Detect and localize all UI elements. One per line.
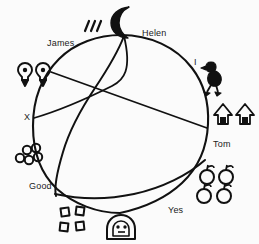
label-good: Good: [29, 181, 52, 191]
outer-circle: [33, 35, 208, 213]
label-i: I: [194, 57, 197, 67]
chord-upperleft-to-tom: [51, 72, 207, 128]
label-james: James: [47, 38, 75, 48]
square-icon: [60, 207, 85, 232]
chord-x-to-left: [34, 36, 127, 118]
tally-marks-icon: [85, 21, 101, 31]
label-x: X: [24, 112, 30, 122]
face-mask-icon: [107, 215, 135, 239]
arc-bottom: [55, 160, 205, 198]
crescent-moon-icon: [111, 7, 129, 38]
tree-icon: [214, 104, 254, 124]
diagram-canvas: James Helen I Tom Yes Good X: [0, 0, 259, 244]
apple-icon: [197, 165, 233, 203]
circular-partition-diagram: [0, 0, 259, 244]
chord-helen-to-good: [55, 36, 124, 196]
label-tom: Tom: [213, 139, 231, 149]
label-yes: Yes: [168, 205, 183, 215]
label-helen: Helen: [142, 28, 167, 38]
bulb-icon: [18, 63, 50, 86]
circle-cluster-icon: [16, 144, 42, 164]
